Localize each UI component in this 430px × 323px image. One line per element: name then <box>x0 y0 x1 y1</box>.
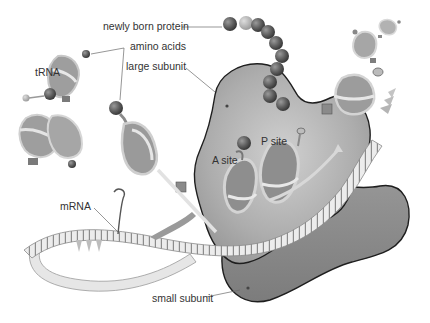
label-p-site: P site <box>261 136 287 147</box>
label-amino-acids: amino acids <box>130 41 186 52</box>
label-trna: tRNA <box>35 67 60 78</box>
label-mrna: mRNA <box>60 201 91 212</box>
ribosome-diagram: newly born protein amino acids large sub… <box>0 0 430 323</box>
label-small-subunit: small subunit <box>152 293 213 304</box>
label-a-site: A site <box>212 155 238 166</box>
label-newly-born-protein: newly born protein <box>103 21 189 32</box>
label-large-subunit: large subunit <box>126 61 186 72</box>
